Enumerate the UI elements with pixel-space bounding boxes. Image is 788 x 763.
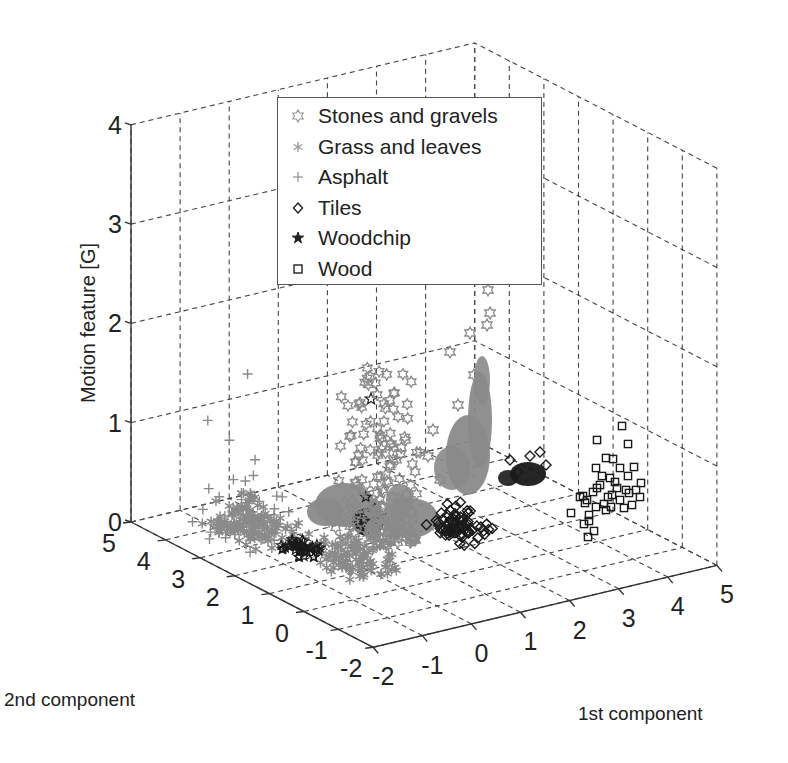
- asterisk-icon: [286, 137, 310, 157]
- legend-label: Wood: [318, 257, 372, 281]
- y-axis-title: 2nd component: [4, 689, 135, 711]
- svg-text:-1: -1: [421, 651, 443, 679]
- svg-text:5: 5: [102, 529, 116, 557]
- legend-label: Grass and leaves: [318, 135, 481, 159]
- legend: Stones and gravels Grass and leaves Asph…: [277, 97, 542, 285]
- svg-text:4: 4: [671, 592, 685, 620]
- svg-text:3: 3: [171, 565, 185, 593]
- svg-text:-1: -1: [305, 636, 327, 664]
- pentagram-icon: [286, 228, 310, 248]
- svg-text:1: 1: [108, 409, 122, 437]
- legend-label: Woodchip: [318, 226, 411, 250]
- legend-item-asphalt: Asphalt: [286, 162, 541, 193]
- legend-item-woodchip: Woodchip: [286, 223, 541, 254]
- svg-text:5: 5: [720, 580, 734, 608]
- svg-text:3: 3: [622, 604, 636, 632]
- legend-label: Asphalt: [318, 165, 388, 189]
- data-points: [188, 284, 645, 585]
- svg-text:1: 1: [524, 627, 538, 655]
- svg-text:0: 0: [275, 619, 289, 647]
- square-icon: [286, 259, 310, 279]
- svg-text:1: 1: [240, 601, 254, 629]
- svg-text:4: 4: [137, 547, 151, 575]
- z-axis-title: Motion feature [G]: [77, 243, 100, 403]
- svg-text:-2: -2: [372, 662, 394, 690]
- legend-label: Stones and gravels: [318, 104, 498, 128]
- legend-item-wood: Wood: [286, 254, 541, 285]
- diamond-icon: [286, 198, 310, 218]
- svg-text:4: 4: [108, 111, 122, 139]
- svg-text:2: 2: [573, 616, 587, 644]
- svg-text:2: 2: [108, 309, 122, 337]
- svg-text:3: 3: [108, 210, 122, 238]
- svg-text:2: 2: [206, 583, 220, 611]
- legend-item-stones: Stones and gravels: [286, 101, 541, 132]
- svg-text:0: 0: [474, 639, 488, 667]
- legend-label: Tiles: [318, 196, 362, 220]
- svg-text:-2: -2: [340, 654, 362, 682]
- x-axis-title: 1st component: [578, 703, 703, 725]
- hexagram-icon: [286, 106, 310, 126]
- legend-item-grass: Grass and leaves: [286, 132, 541, 163]
- legend-item-tiles: Tiles: [286, 193, 541, 224]
- plus-icon: [286, 167, 310, 187]
